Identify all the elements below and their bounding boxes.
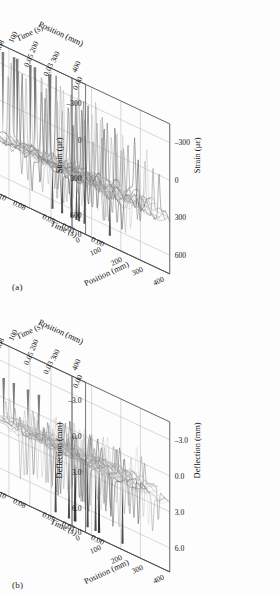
y-tick-top: 0.03 bbox=[41, 61, 55, 77]
plot-a-canvas: –30003006000Strain (με)–3000300600Strain… bbox=[0, 0, 279, 298]
x-tick-bottom: 300 bbox=[130, 563, 144, 576]
y-tick-bottom: 0.00 bbox=[90, 533, 106, 547]
x-tick-top: 300 bbox=[49, 348, 62, 362]
x-axis-label-top: Position (mm) bbox=[37, 318, 85, 347]
z-tick-right: 600 bbox=[175, 251, 187, 260]
x-tick-top: 300 bbox=[49, 50, 62, 64]
plot-b-canvas: –3.00.03.06.00Deflection (mm)–3.00.03.06… bbox=[0, 298, 279, 596]
z-tick-right: –300 bbox=[174, 138, 190, 147]
x-tick-top: 400 bbox=[70, 60, 83, 74]
z-tick-right: 3.0 bbox=[175, 508, 185, 517]
x-axis-label-bottom: Position (mm) bbox=[83, 260, 131, 289]
x-tick-bottom: 300 bbox=[130, 265, 144, 278]
z-axis-label-left: Deflection (mm) bbox=[55, 422, 64, 478]
z-tick-left: 600 bbox=[70, 211, 82, 220]
z-tick-right: 300 bbox=[175, 213, 187, 222]
z-tick-right: 0.0 bbox=[175, 472, 185, 481]
z-tick-left: –300 bbox=[65, 99, 81, 108]
z-tick-right: 6.0 bbox=[175, 544, 185, 553]
z-tick-left: –3.0 bbox=[67, 396, 81, 405]
y-tick-bottom: 0.00 bbox=[90, 235, 106, 249]
z-tick-left: 3.0 bbox=[72, 468, 82, 477]
x-tick-bottom: 400 bbox=[151, 572, 165, 585]
x-tick-bottom: 400 bbox=[151, 274, 165, 287]
x-tick-top: 200 bbox=[28, 40, 41, 54]
plot-b-3d-axes: –3.00.03.06.00Deflection (mm)–3.00.03.06… bbox=[0, 298, 279, 596]
panel-b: –3.00.03.06.00Deflection (mm)–3.00.03.06… bbox=[0, 298, 279, 596]
x-tick-top: 400 bbox=[70, 358, 83, 372]
y-tick-bottom: 0.10 bbox=[0, 487, 8, 501]
panel-a-caption: (a) bbox=[12, 282, 23, 292]
z-tick-left: 300 bbox=[70, 174, 82, 183]
z-tick-left: 6.0 bbox=[72, 504, 82, 513]
y-tick-top: 0.03 bbox=[41, 359, 55, 375]
panel-b-caption: (b) bbox=[12, 580, 23, 590]
y-tick-top: 0.00 bbox=[71, 373, 85, 389]
z-tick-right: –3.0 bbox=[174, 436, 188, 445]
y-tick-top: 0.05 bbox=[22, 350, 36, 366]
y-tick-top: 0.00 bbox=[71, 75, 85, 91]
z-tick-left: 0.0 bbox=[72, 432, 82, 441]
z-axis-label-right: Deflection (mm) bbox=[193, 422, 202, 478]
x-axis-label-bottom: Position (mm) bbox=[83, 558, 131, 587]
z-axis-label-left: Strain (με) bbox=[55, 137, 64, 173]
x-tick-top: 200 bbox=[28, 338, 41, 352]
plot-a-3d-axes: –30003006000Strain (με)–3000300600Strain… bbox=[0, 0, 279, 298]
panel-a: –30003006000Strain (με)–3000300600Strain… bbox=[0, 0, 279, 298]
z-axis-label-right: Strain (με) bbox=[193, 137, 202, 173]
z-tick-right: 0 bbox=[175, 176, 179, 185]
x-axis-label-top: Position (mm) bbox=[37, 20, 85, 49]
y-tick-bottom: 0.08 bbox=[12, 198, 28, 212]
y-tick-bottom: 0.10 bbox=[0, 189, 8, 203]
y-tick-top: 0.05 bbox=[22, 52, 36, 68]
y-tick-bottom: 0.08 bbox=[12, 496, 28, 510]
z-tick-left: 0 bbox=[78, 136, 82, 145]
figure-two-panel-3d-plots: –30003006000Strain (με)–3000300600Strain… bbox=[0, 0, 279, 596]
